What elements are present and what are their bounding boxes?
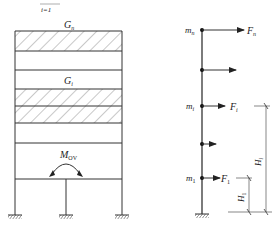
node-1: m1 F1 [186,173,230,185]
node-intermediate-lower [200,142,216,146]
label-Fi: Fi [229,101,238,113]
seismic-model-diagram: i=1 Gn Gi MOV [0,0,279,234]
label-Gi: Gi [64,75,73,87]
overturning-moment: MOV [49,149,83,177]
floor-i-upper-band [15,89,122,106]
dimension-H1: H1 [236,175,252,215]
fixed-support-middle [59,215,73,219]
label-Gn: Gn [64,19,74,31]
fixed-support-model [195,214,209,218]
dimension-Hi: Hi [253,103,270,215]
label-Fn: Fn [246,25,256,37]
floor-i-lower-band [15,106,122,123]
summation-lower-limit: i=1 [41,6,51,14]
summation-fragment: i=1 [40,4,60,14]
fixed-support-right [115,215,129,219]
building-frame: Gn Gi MOV [8,19,129,219]
label-mi: mi [186,101,195,112]
lumped-mass-model: mn Fn mi Fi m1 F1 [185,25,272,218]
node-intermediate-upper [200,68,236,72]
label-m1: m1 [186,173,196,184]
roof-slab-band [15,31,122,51]
node-n: mn Fn [185,25,256,37]
label-mn: mn [185,25,195,36]
label-Hi: Hi [253,158,264,168]
label-Mov: MOV [59,149,78,161]
moment-arc [52,164,80,174]
label-H1: H1 [236,193,247,204]
label-F1: F1 [220,173,230,185]
fixed-support-left [8,215,22,219]
node-i: mi Fi [186,101,238,113]
